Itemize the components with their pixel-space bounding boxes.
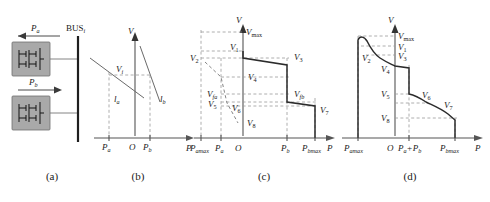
axis-label-v-c: V	[236, 15, 243, 25]
axis-label-v-b: V	[128, 26, 135, 36]
caption-b: (b)	[108, 170, 168, 182]
label-v7-c: V7	[320, 105, 329, 116]
axis-label-p-d: P	[474, 143, 481, 153]
origin-label-d: O	[387, 143, 394, 153]
label-v8-c: V8	[247, 118, 256, 129]
label-v8-d: V8	[381, 113, 390, 124]
tick-label-pbmax-c: Pbmax	[301, 143, 321, 154]
power-flow-arrow-bottom	[18, 87, 62, 94]
origin-label-b: O	[129, 142, 136, 152]
label-v7-d: V7	[444, 100, 453, 111]
caption-a: (a)	[22, 170, 82, 182]
label-v3-c: V3	[294, 52, 303, 63]
tick-label-pamax-d: Pamax	[343, 143, 363, 154]
panel-c-piecewise: V P O Pamax Pa Pb	[190, 10, 340, 160]
tick-label-pa-c: Pa	[214, 143, 224, 154]
label-v4-c: V4	[248, 72, 257, 83]
label-v5-d: V5	[381, 89, 390, 100]
label-v4-d: V4	[381, 64, 390, 75]
bus-label: BUSi	[66, 23, 86, 34]
label-vmax-c: Vmax	[246, 27, 263, 38]
axis-label-v-d: V	[388, 15, 395, 25]
axis-label-p-c: P	[326, 143, 333, 153]
flow-bottom-label: Pb	[28, 77, 38, 88]
converter-block-top	[12, 42, 50, 76]
label-vmax-d: Vmax	[398, 31, 415, 42]
tick-label-pb-b: Pb	[142, 142, 152, 153]
axes-b	[94, 32, 194, 141]
label-lb-b: lb	[160, 94, 166, 105]
figure-root: Pa P	[0, 0, 490, 202]
converter-block-bottom	[12, 96, 50, 130]
axes-c	[194, 24, 335, 141]
label-v1-c: V1	[230, 42, 239, 53]
caption-d: (d)	[380, 170, 440, 182]
label-v6-d: V6	[422, 90, 431, 101]
label-v2-d: V2	[362, 53, 371, 64]
origin-label-c: O	[235, 143, 242, 153]
tick-label-pamax-c: Pamax	[190, 143, 209, 154]
label-vi-b: Vi	[116, 64, 124, 75]
tick-label-pa-b: Pa	[101, 142, 111, 153]
tick-label-pbmax-d: Pbmax	[439, 143, 459, 154]
tick-label-papb-d: Pa+Pb	[397, 143, 421, 154]
label-v5-c: V5	[208, 99, 217, 110]
label-v6-c: V6	[232, 103, 241, 114]
tick-label-pb-c: Pb	[280, 143, 290, 154]
caption-c: (c)	[234, 170, 294, 182]
label-v2-c: V2	[190, 53, 199, 64]
flow-top-label: Pa	[30, 23, 40, 34]
panel-d-aggregated: V P O Pamax Pa+Pb Pbmax Vmax	[336, 10, 490, 160]
label-vfb-c: Vfb	[294, 89, 304, 100]
label-la-b: la	[114, 94, 120, 105]
panel-b-droop: V P O Pa Pb Vi la lb	[88, 10, 198, 160]
